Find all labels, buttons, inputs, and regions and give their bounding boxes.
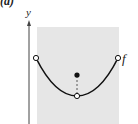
open-point-minimum [74,93,79,98]
open-endpoint-left [33,55,38,60]
open-endpoint-right [115,55,120,60]
function-label: f [122,51,126,67]
graph [0,0,138,124]
y-axis-arrow-icon [27,20,31,26]
filled-point [74,72,79,77]
